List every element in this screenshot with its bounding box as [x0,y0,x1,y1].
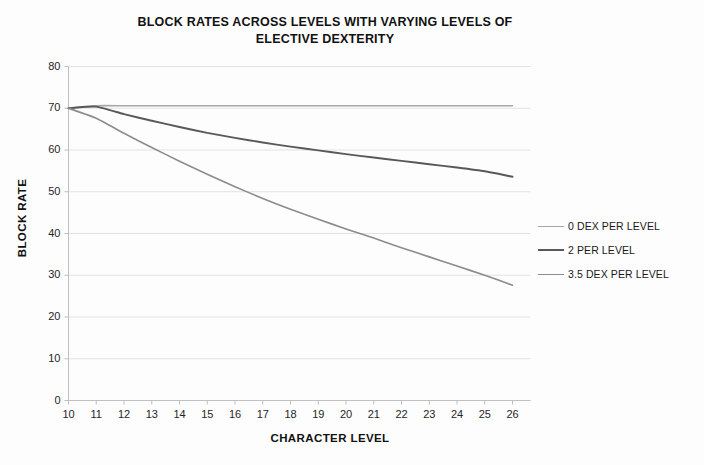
y-tick-label: 50 [35,185,61,197]
x-tick-label: 22 [390,408,414,420]
y-tick-label: 30 [35,268,61,280]
y-tick-marks [65,67,69,401]
y-tick-label: 20 [35,310,61,322]
series-line-1 [69,107,513,177]
chart-legend: 0 DEX PER LEVEL2 PER LEVEL3.5 DEX PER LE… [538,214,698,286]
x-tick-label: 26 [501,408,525,420]
x-tick-label: 20 [334,408,358,420]
x-tick-label: 21 [362,408,386,420]
series-line-2 [69,108,513,285]
legend-line-swatch [538,249,564,251]
x-axis-title: CHARACTER LEVEL [180,432,480,444]
legend-line-swatch [538,226,564,227]
y-tick-label: 70 [35,101,61,113]
x-tick-marks [69,401,513,405]
chart-container: BLOCK RATES ACROSS LEVELS WITH VARYING L… [0,0,704,465]
x-tick-label: 23 [417,408,441,420]
y-tick-label: 40 [35,227,61,239]
x-tick-label: 19 [306,408,330,420]
legend-item-label: 3.5 DEX PER LEVEL [568,268,669,280]
y-tick-label: 10 [35,352,61,364]
x-tick-label: 13 [140,408,164,420]
legend-item-label: 0 DEX PER LEVEL [568,220,660,232]
x-tick-label: 10 [57,408,81,420]
legend-line-swatch [538,274,564,275]
x-tick-label: 17 [251,408,275,420]
series-lines [69,106,513,286]
legend-item-label: 2 PER LEVEL [568,244,635,256]
x-tick-label: 24 [445,408,469,420]
legend-item[interactable]: 0 DEX PER LEVEL [538,214,698,238]
y-tick-label: 60 [35,143,61,155]
y-axis-title: BLOCK RATE [16,163,28,273]
x-tick-label: 12 [112,408,136,420]
legend-item[interactable]: 2 PER LEVEL [538,238,698,262]
y-tick-label: 0 [35,394,61,406]
x-tick-label: 14 [168,408,192,420]
x-tick-label: 11 [84,408,108,420]
x-tick-label: 25 [473,408,497,420]
legend-item[interactable]: 3.5 DEX PER LEVEL [538,262,698,286]
x-tick-label: 16 [223,408,247,420]
y-tick-label: 80 [35,60,61,72]
x-tick-label: 15 [195,408,219,420]
x-tick-label: 18 [279,408,303,420]
